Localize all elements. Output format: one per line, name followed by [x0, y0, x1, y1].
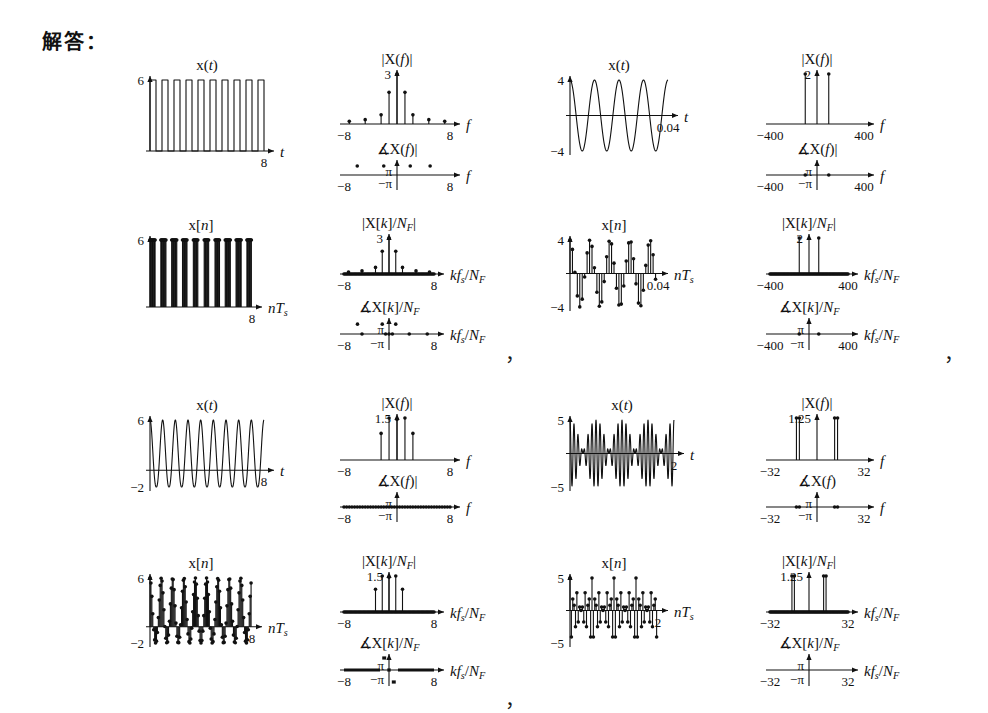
- svg-text:8: 8: [431, 278, 438, 293]
- plot-q1-time-continuous: x(t)t86: [132, 58, 292, 173]
- svg-text:kfs/NF: kfs/NF: [450, 663, 486, 681]
- plot-q4-phase-continuous: ∡X(f)f−3232π−π: [748, 472, 898, 534]
- svg-text:−π: −π: [370, 672, 384, 687]
- svg-text:−π: −π: [798, 176, 812, 191]
- svg-text:3: 3: [385, 67, 392, 82]
- svg-text:−2: −2: [130, 480, 144, 495]
- svg-text:f: f: [466, 453, 472, 469]
- svg-text:∡X[k]/NF: ∡X[k]/NF: [779, 635, 841, 653]
- svg-text:x[n]: x[n]: [189, 555, 214, 571]
- svg-text:4: 4: [558, 73, 565, 88]
- svg-text:8: 8: [447, 511, 454, 526]
- svg-text:400: 400: [838, 338, 858, 353]
- svg-text:−5: −5: [550, 636, 564, 651]
- svg-text:nTs: nTs: [674, 267, 694, 285]
- svg-text:|X(f)|: |X(f)|: [381, 395, 412, 412]
- svg-text:6: 6: [138, 73, 145, 88]
- svg-text:0.04: 0.04: [647, 278, 670, 293]
- svg-text:π: π: [797, 658, 804, 673]
- svg-text:6: 6: [138, 571, 145, 586]
- plot-q1-mag-discrete: |X[k]/NF|kfs/NF−883: [330, 212, 480, 294]
- svg-text:|X[k]/NF|: |X[k]/NF|: [362, 215, 416, 233]
- svg-text:−4: −4: [550, 144, 564, 159]
- svg-text:kfs/NF: kfs/NF: [864, 605, 900, 623]
- svg-text:kfs/NF: kfs/NF: [864, 663, 900, 681]
- svg-text:nTs: nTs: [268, 300, 288, 318]
- plot-q2-phase-discrete: ∡X[k]/NFkfs/NF−400400π−π: [748, 300, 898, 362]
- svg-text:x[n]: x[n]: [189, 217, 214, 233]
- svg-text:|X(f)|: |X(f)|: [801, 395, 832, 412]
- svg-text:3: 3: [377, 231, 384, 246]
- plot-q3-phase-discrete: ∡X[k]/NFkfs/NF−88π−π: [330, 636, 480, 698]
- svg-text:∡X[k]/NF: ∡X[k]/NF: [359, 635, 421, 653]
- svg-text:−π: −π: [378, 176, 392, 191]
- svg-text:−400: −400: [757, 278, 784, 293]
- svg-text:nTs: nTs: [268, 620, 288, 638]
- svg-text:−5: −5: [550, 480, 564, 495]
- svg-text:−8: −8: [337, 616, 351, 631]
- plot-q4-time-discrete: x[n]nTs25−5: [552, 556, 702, 671]
- plot-q4-mag-discrete: |X[k]/NF|kfs/NF−32321.25: [748, 550, 898, 632]
- answer-heading: 解答：: [42, 26, 108, 55]
- svg-text:−π: −π: [378, 508, 392, 523]
- plot-q3-mag-continuous: |X(f)|f−881.5: [330, 392, 480, 482]
- svg-text:∡X(f): ∡X(f): [798, 473, 836, 490]
- svg-text:t: t: [280, 463, 285, 479]
- svg-text:f: f: [880, 168, 886, 184]
- svg-text:|X[k]/NF|: |X[k]/NF|: [782, 215, 836, 233]
- svg-text:−400: −400: [757, 179, 784, 194]
- svg-text:8: 8: [431, 674, 438, 689]
- plot-q4-time-continuous: x(t)t25−5: [552, 398, 702, 513]
- svg-text:|X(f)|: |X(f)|: [381, 51, 412, 68]
- svg-text:f: f: [466, 500, 472, 516]
- plot-q2-phase-continuous: ∡X(f)|f−400400π−π: [748, 140, 898, 202]
- svg-text:∡X[k]/NF: ∡X[k]/NF: [779, 299, 841, 317]
- svg-text:−8: −8: [337, 674, 351, 689]
- svg-text:8: 8: [261, 474, 268, 489]
- plot-q2-mag-continuous: |X(f)|f−4004002: [748, 48, 898, 148]
- svg-text:−4: −4: [550, 300, 564, 315]
- svg-text:f: f: [466, 117, 472, 133]
- svg-text:−32: −32: [760, 674, 780, 689]
- svg-text:∡X[k]/NF: ∡X[k]/NF: [359, 299, 421, 317]
- svg-text:6: 6: [138, 413, 145, 428]
- svg-text:nTs: nTs: [674, 604, 694, 622]
- separator-comma-3: ，: [505, 684, 525, 713]
- plot-q1-phase-discrete: ∡X[k]/NFkfs/NF−88π−π: [330, 300, 480, 362]
- svg-text:kfs/NF: kfs/NF: [450, 267, 486, 285]
- svg-text:2: 2: [655, 615, 662, 630]
- svg-text:t: t: [690, 447, 695, 463]
- svg-text:kfs/NF: kfs/NF: [450, 605, 486, 623]
- svg-text:−π: −π: [790, 672, 804, 687]
- plot-q2-mag-discrete: |X[k]/NF|kfs/NF−4004002: [748, 212, 898, 294]
- svg-text:−8: −8: [337, 278, 351, 293]
- plot-q2-time-discrete: x[n]nTs0.044−4: [552, 218, 702, 333]
- svg-text:−π: −π: [790, 336, 804, 351]
- svg-text:8: 8: [447, 179, 454, 194]
- svg-text:32: 32: [842, 674, 855, 689]
- svg-text:8: 8: [261, 155, 268, 170]
- svg-text:x[n]: x[n]: [602, 555, 627, 571]
- svg-text:|X(f)|: |X(f)|: [801, 51, 832, 68]
- svg-text:t: t: [684, 109, 689, 125]
- svg-text:f: f: [880, 453, 886, 469]
- svg-text:−8: −8: [337, 511, 351, 526]
- svg-text:5: 5: [558, 571, 565, 586]
- svg-text:−32: −32: [760, 511, 780, 526]
- svg-text:400: 400: [838, 278, 858, 293]
- svg-text:−π: −π: [370, 336, 384, 351]
- svg-text:32: 32: [858, 511, 871, 526]
- svg-text:x(t): x(t): [608, 57, 630, 74]
- plot-q3-time-discrete: x[n]nTs86−2: [132, 556, 292, 671]
- svg-text:8: 8: [249, 631, 256, 646]
- svg-text:∡X(f)|: ∡X(f)|: [797, 141, 838, 158]
- separator-comma-2: ，: [944, 338, 964, 367]
- svg-text:kfs/NF: kfs/NF: [864, 327, 900, 345]
- svg-text:−400: −400: [757, 338, 784, 353]
- svg-text:f: f: [466, 168, 472, 184]
- svg-text:−π: −π: [798, 508, 812, 523]
- svg-text:f: f: [880, 500, 886, 516]
- plot-q3-time-continuous: x(t)t86−2: [132, 398, 292, 513]
- svg-text:−8: −8: [337, 179, 351, 194]
